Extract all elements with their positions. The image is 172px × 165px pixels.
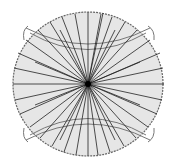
ear-curve [24, 128, 29, 142]
ear-curve [24, 26, 29, 40]
radial-diagram [0, 0, 172, 165]
center-point [85, 81, 91, 87]
